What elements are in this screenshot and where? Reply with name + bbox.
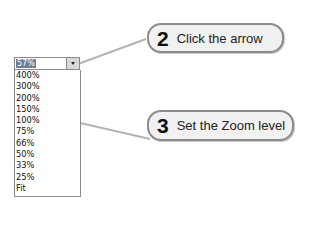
step-instruction: Set the Zoom level: [177, 118, 285, 133]
zoom-option-fit[interactable]: Fit: [15, 183, 80, 194]
zoom-option-150[interactable]: 150%: [15, 104, 80, 115]
callout-step-2: 2 Click the arrow: [147, 23, 284, 53]
connector-line-arrow: [78, 39, 146, 64]
dropdown-arrow-button[interactable]: [66, 58, 79, 69]
zoom-option-200[interactable]: 200%: [15, 93, 80, 104]
zoom-option-100[interactable]: 100%: [15, 115, 80, 126]
zoom-option-75[interactable]: 75%: [15, 126, 80, 137]
step-number: 2: [157, 28, 169, 49]
callout-step-3: 3 Set the Zoom level: [147, 110, 294, 141]
zoom-option-33[interactable]: 33%: [15, 160, 80, 171]
step-number: 3: [157, 115, 169, 136]
zoom-option-66[interactable]: 66%: [15, 138, 80, 149]
zoom-option-50[interactable]: 50%: [15, 149, 80, 160]
zoom-combobox[interactable]: 57%: [14, 57, 80, 70]
step-instruction: Click the arrow: [177, 31, 263, 46]
zoom-option-400[interactable]: 400%: [15, 70, 80, 81]
zoom-value[interactable]: 57%: [16, 59, 36, 68]
zoom-option-25[interactable]: 25%: [15, 172, 80, 183]
zoom-option-300[interactable]: 300%: [15, 81, 80, 92]
zoom-options-list[interactable]: 400% 300% 200% 150% 100% 75% 66% 50% 33%…: [14, 70, 81, 197]
